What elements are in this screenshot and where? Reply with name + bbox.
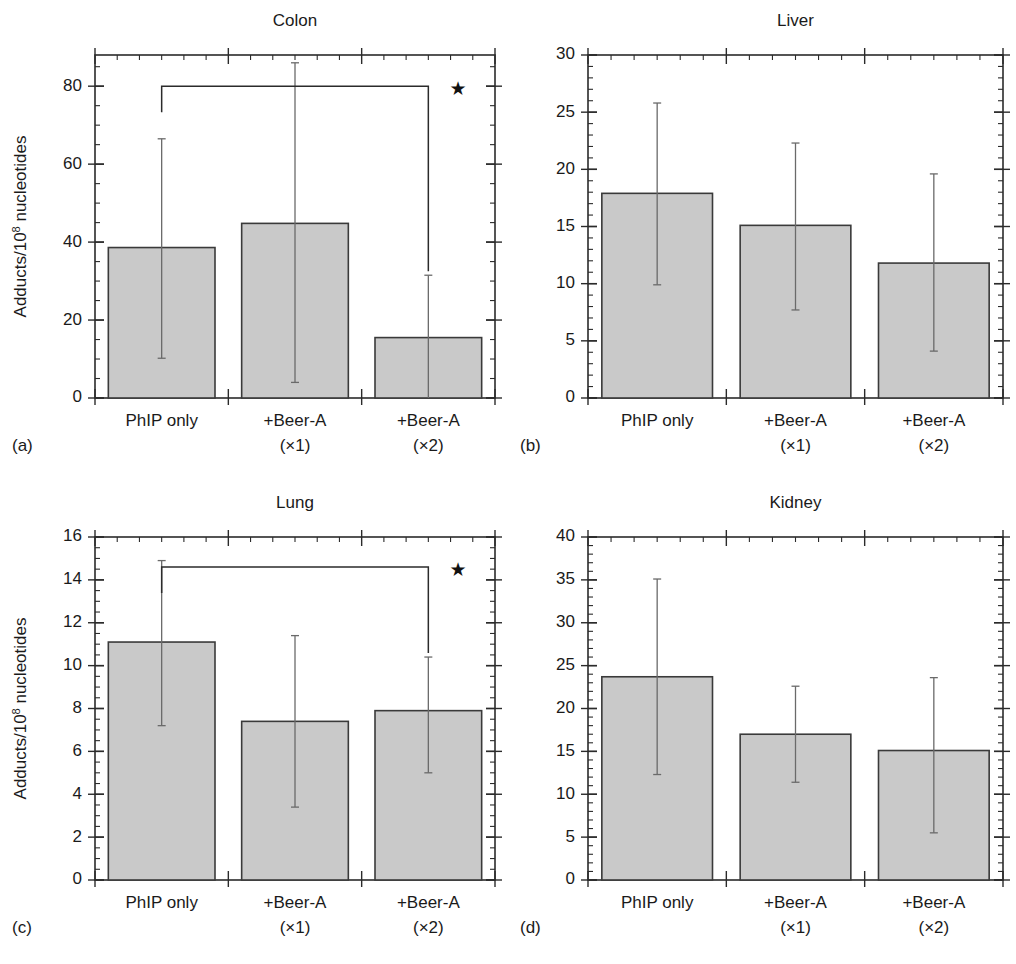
x-category-sublabel-2: (×1) <box>780 436 811 455</box>
x-category-sublabel-3: (×2) <box>413 436 444 455</box>
y-tick-label: 40 <box>556 526 575 545</box>
y-tick-label: 10 <box>556 273 575 292</box>
y-tick-label: 25 <box>556 655 575 674</box>
significance-star: ★ <box>449 77 466 99</box>
x-category-label-2: +Beer-A <box>764 893 827 912</box>
y-tick-label: 14 <box>63 569 82 588</box>
x-category-label-3: +Beer-A <box>902 893 965 912</box>
panel-colon: ColonAdducts/108 nucleotides020406080★Ph… <box>0 0 508 482</box>
x-category-label-1: PhIP only <box>621 411 694 430</box>
chart-colon: ColonAdducts/108 nucleotides020406080★Ph… <box>0 0 508 482</box>
bottom-caption-strip <box>0 952 1016 964</box>
y-tick-label: 5 <box>566 827 575 846</box>
panel-label: (b) <box>520 436 541 455</box>
y-tick-label: 16 <box>63 526 82 545</box>
y-tick-label: 4 <box>73 784 82 803</box>
y-tick-labels: 051015202530 <box>556 44 575 406</box>
chart-liver: Liver051015202530PhIP only+Beer-A(×1)+Be… <box>508 0 1016 482</box>
y-axis-label-main: Adducts/10 <box>11 232 30 317</box>
y-tick-label: 10 <box>63 655 82 674</box>
panel-label: (a) <box>12 436 33 455</box>
x-category-sublabel-2: (×1) <box>780 918 811 937</box>
figure-four-panel-bar-charts: ColonAdducts/108 nucleotides020406080★Ph… <box>0 0 1016 964</box>
y-tick-label: 30 <box>556 44 575 63</box>
y-tick-label: 20 <box>63 310 82 329</box>
x-category-sublabel-3: (×2) <box>413 918 444 937</box>
x-category-label-2: +Beer-A <box>264 411 327 430</box>
y-tick-label: 25 <box>556 102 575 121</box>
y-tick-label: 10 <box>556 784 575 803</box>
panel-lung: LungAdducts/108 nucleotides0246810121416… <box>0 482 508 964</box>
y-tick-labels: 0246810121416 <box>63 526 82 888</box>
x-category-labels: PhIP only+Beer-A(×1)+Beer-A(×2) <box>621 893 966 937</box>
chart-lung: LungAdducts/108 nucleotides0246810121416… <box>0 482 508 964</box>
y-axis-label-text: Adducts/108 nucleotides <box>10 136 30 318</box>
x-category-labels: PhIP only+Beer-A(×1)+Beer-A(×2) <box>621 411 966 455</box>
panel-label: (d) <box>520 918 541 937</box>
y-axis-label-text: Adducts/108 nucleotides <box>10 618 30 800</box>
y-axis-label-tail: nucleotides <box>11 136 30 227</box>
chart-title: Liver <box>777 11 814 30</box>
x-category-sublabel-2: (×1) <box>280 918 311 937</box>
y-tick-label: 12 <box>63 612 82 631</box>
panel-liver: Liver051015202530PhIP only+Beer-A(×1)+Be… <box>508 0 1016 482</box>
y-tick-label: 15 <box>556 741 575 760</box>
panel-kidney: Kidney0510152025303540PhIP only+Beer-A(×… <box>508 482 1016 964</box>
chart-title: Kidney <box>770 493 822 512</box>
y-tick-label: 20 <box>556 159 575 178</box>
x-category-sublabel-3: (×2) <box>918 436 949 455</box>
y-tick-label: 20 <box>556 698 575 717</box>
y-tick-label: 0 <box>73 869 82 888</box>
y-tick-label: 30 <box>556 612 575 631</box>
y-tick-label: 15 <box>556 216 575 235</box>
y-tick-label: 0 <box>566 387 575 406</box>
x-category-label-1: PhIP only <box>621 893 694 912</box>
x-category-labels: PhIP only+Beer-A(×1)+Beer-A(×2) <box>125 411 460 455</box>
y-tick-label: 80 <box>63 76 82 95</box>
chart-title: Lung <box>276 493 314 512</box>
y-tick-labels: 0510152025303540 <box>556 526 575 888</box>
y-axis-label: Adducts/108 nucleotides <box>10 136 30 318</box>
chart-title: Colon <box>273 11 317 30</box>
x-category-label-3: +Beer-A <box>397 893 460 912</box>
x-category-label-2: +Beer-A <box>764 411 827 430</box>
x-category-label-1: PhIP only <box>125 411 198 430</box>
y-tick-label: 0 <box>73 387 82 406</box>
y-tick-label: 60 <box>63 154 82 173</box>
x-category-label-3: +Beer-A <box>397 411 460 430</box>
panel-label: (c) <box>12 918 32 937</box>
x-category-label-1: PhIP only <box>125 893 198 912</box>
y-tick-label: 6 <box>73 741 82 760</box>
y-axis-label-main: Adducts/10 <box>11 714 30 799</box>
y-tick-labels: 020406080 <box>63 76 82 407</box>
x-category-label-3: +Beer-A <box>902 411 965 430</box>
y-axis-label-tail: nucleotides <box>11 618 30 709</box>
y-tick-label: 35 <box>556 569 575 588</box>
x-category-sublabel-3: (×2) <box>918 918 949 937</box>
y-tick-label: 5 <box>566 330 575 349</box>
x-category-label-2: +Beer-A <box>264 893 327 912</box>
y-tick-label: 2 <box>73 827 82 846</box>
y-tick-label: 8 <box>73 698 82 717</box>
y-axis-label: Adducts/108 nucleotides <box>10 618 30 800</box>
chart-kidney: Kidney0510152025303540PhIP only+Beer-A(×… <box>508 482 1016 964</box>
significance-star: ★ <box>449 558 466 580</box>
y-tick-label: 0 <box>566 869 575 888</box>
x-category-sublabel-2: (×1) <box>280 436 311 455</box>
y-tick-label: 40 <box>63 232 82 251</box>
x-category-labels: PhIP only+Beer-A(×1)+Beer-A(×2) <box>125 893 460 937</box>
